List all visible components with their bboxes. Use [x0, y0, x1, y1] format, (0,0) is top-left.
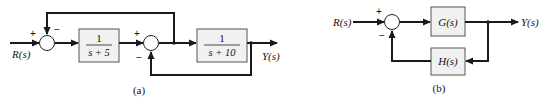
block-1-denominator: s + 5: [88, 47, 110, 58]
block-diagrams-canvas: R(s) + − 1 s + 5 + − 1 s + 10: [0, 0, 543, 101]
g-block-label: G(s): [438, 16, 458, 29]
summing-junction-b: [385, 15, 400, 30]
block-1: 1 s + 5: [79, 29, 119, 62]
feedback-to-h-path: [466, 22, 488, 61]
output-label-a: Y(s): [262, 50, 280, 63]
block-1-numerator: 1: [96, 32, 102, 44]
sum-b-plus-sign: +: [376, 6, 382, 17]
sum2-minus-sign: −: [136, 52, 142, 63]
input-label-a: R(s): [11, 48, 31, 61]
summing-junction-2: [144, 36, 159, 51]
output-label-b: Y(s): [521, 16, 539, 29]
summing-junction-1: [40, 36, 55, 51]
sum-b-minus-sign: −: [379, 30, 385, 41]
forward-block-g: G(s): [431, 7, 465, 36]
block-2: 1 s + 10: [197, 29, 247, 62]
input-label-b: R(s): [332, 16, 352, 29]
block-2-denominator: s + 10: [209, 47, 237, 58]
h-block-label: H(s): [437, 55, 458, 68]
sum1-plus-sign: +: [30, 28, 36, 39]
feedback-to-sum-path: [392, 31, 431, 61]
block-2-numerator: 1: [219, 32, 225, 44]
feedback-block-h: H(s): [431, 48, 465, 75]
diagram-b: R(s) + − G(s) Y(s) H(s) (b): [332, 6, 539, 95]
caption-a: (a): [133, 84, 146, 97]
caption-b: (b): [433, 82, 446, 95]
diagram-a: R(s) + − 1 s + 5 + − 1 s + 10: [10, 13, 280, 97]
sum2-plus-sign: +: [134, 28, 140, 39]
sum1-minus-sign: −: [54, 24, 60, 35]
